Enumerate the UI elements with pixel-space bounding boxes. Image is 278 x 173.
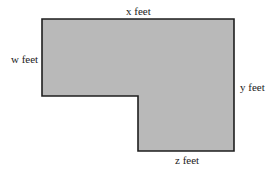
top-side-label: x feet bbox=[126, 6, 151, 17]
l-shape-figure bbox=[0, 0, 278, 173]
left-side-label: w feet bbox=[11, 54, 38, 65]
l-shaped-region bbox=[42, 19, 234, 151]
right-side-label: y feet bbox=[240, 82, 265, 93]
bottom-side-label: z feet bbox=[175, 155, 199, 166]
l-shape-diagram: x feet w feet y feet z feet bbox=[0, 0, 278, 173]
